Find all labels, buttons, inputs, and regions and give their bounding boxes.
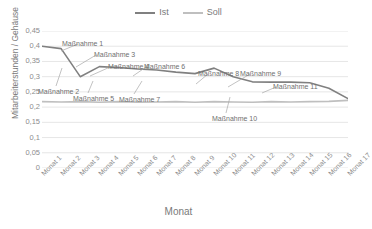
annotation-label: Maßnahme 9 bbox=[240, 70, 281, 77]
y-axis-tick-labels: 00,050,10,150,20,250,30,350,40,45 bbox=[10, 0, 40, 229]
y-axis-tick-label: 0,4 bbox=[14, 42, 40, 50]
annotation-label: Maßnahme 6 bbox=[144, 63, 185, 70]
annotation-label: Maßnahme 5 bbox=[73, 95, 114, 102]
legend-entry-ist[interactable]: Ist bbox=[135, 8, 169, 17]
annotation-label: Maßnahme 7 bbox=[119, 96, 160, 103]
legend-swatch-ist bbox=[135, 12, 155, 14]
legend-label-soll: Soll bbox=[207, 8, 222, 17]
chart-legend: Ist Soll bbox=[0, 8, 357, 17]
x-axis-title: Monat bbox=[0, 206, 357, 217]
y-axis-tick-label: 0,45 bbox=[14, 27, 40, 35]
annotation-label: Maßnahme 2 bbox=[38, 88, 79, 95]
legend-swatch-soll bbox=[183, 12, 203, 14]
y-axis-tick-label: 0,05 bbox=[14, 149, 40, 157]
y-axis-tick-label: 0 bbox=[14, 164, 40, 172]
y-axis-tick-label: 0,3 bbox=[14, 73, 40, 81]
legend-label-ist: Ist bbox=[159, 8, 169, 17]
annotation-label: Maßnahme 8 bbox=[198, 70, 239, 77]
y-axis-tick-label: 0,2 bbox=[14, 103, 40, 111]
annotation-label: Maßnahme 11 bbox=[273, 83, 318, 90]
annotation-label: Maßnahme 10 bbox=[212, 115, 257, 122]
y-axis-tick-label: 0,25 bbox=[14, 88, 40, 96]
x-axis-tick-labels: Monat 1Monat 2Monat 3Monat 4Monat 5Monat… bbox=[42, 168, 348, 208]
y-axis-tick-label: 0,35 bbox=[14, 57, 40, 65]
annotation-label: Maßnahme 3 bbox=[94, 51, 135, 58]
annotation-label: Maßnahme 1 bbox=[62, 40, 103, 47]
series-line-ist bbox=[42, 46, 348, 98]
y-axis-tick-label: 0,15 bbox=[14, 118, 40, 126]
y-axis-tick-label: 0,1 bbox=[14, 134, 40, 142]
legend-entry-soll[interactable]: Soll bbox=[183, 8, 222, 17]
